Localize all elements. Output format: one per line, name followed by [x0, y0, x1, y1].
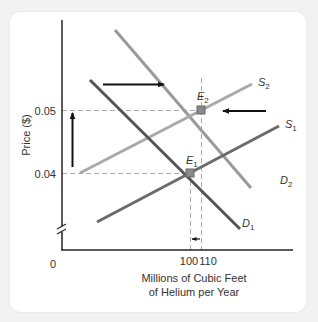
supply-demand-chart: 0.05 0.04 0 100 110 Price ($) Millions o…	[0, 0, 318, 322]
y-tick-005: 0.05	[35, 105, 56, 117]
label-s1: S1	[285, 118, 297, 133]
x-axis-title-line2: of Helium per Year	[149, 286, 240, 298]
curves	[80, 30, 279, 229]
guide-lines	[62, 78, 202, 250]
label-d1: D1	[242, 217, 255, 232]
equilibrium-e1-marker	[186, 169, 194, 177]
y-tick-004: 0.04	[35, 168, 56, 180]
x-tick-110: 110	[199, 255, 217, 267]
equilibrium-e2-marker	[197, 106, 205, 114]
curve-d2	[115, 30, 251, 188]
label-e2: E2	[197, 90, 209, 105]
x-axis-title-line1: Millions of Cubic Feet	[141, 272, 246, 284]
origin-label: 0	[50, 258, 56, 270]
y-axis-title: Price ($)	[20, 114, 32, 156]
label-s2: S2	[258, 76, 270, 91]
x-tick-100: 100	[180, 255, 198, 267]
label-d2: D2	[280, 174, 293, 189]
label-e1: E1	[186, 154, 198, 169]
